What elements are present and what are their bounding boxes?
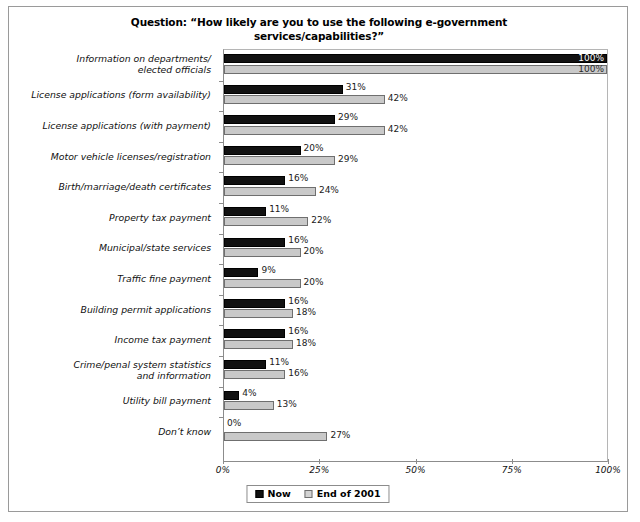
category-label-line: Motor vehicle licenses/registration	[51, 151, 211, 162]
x-axis-tick-label: 50%	[405, 465, 425, 475]
chart-legend: NowEnd of 2001	[246, 485, 389, 503]
bar-end-of-2001	[224, 248, 301, 257]
x-axis-tick	[416, 459, 417, 464]
bar-rows: 100%100%31%42%29%42%20%29%16%24%11%22%16…	[224, 50, 607, 461]
category-label-line: Don’t know	[158, 426, 211, 437]
bar-value-end-of-2001: 20%	[301, 247, 324, 256]
bar-value-now: 16%	[285, 236, 308, 245]
x-axis-tick-label: 0%	[216, 465, 230, 475]
category-label: Building permit applications	[19, 294, 217, 325]
chart-title-line: Question: “How likely are you to use the…	[69, 15, 569, 29]
category-tick	[219, 111, 224, 112]
bar-now	[224, 146, 301, 155]
chart-title-line: services/capabilities?”	[69, 29, 569, 43]
category-label: License applications (with payment)	[19, 110, 217, 141]
bar-now: 100%	[224, 54, 607, 63]
bar-end-of-2001	[224, 95, 385, 104]
category-label-line: License applications (with payment)	[43, 120, 211, 131]
bar-value-now: 16%	[285, 297, 308, 306]
category-tick	[219, 387, 224, 388]
bar-value-now: 0%	[224, 419, 241, 428]
bar-row: 0%27%	[224, 417, 607, 448]
bar-value-now: 11%	[266, 358, 289, 367]
bar-now	[224, 85, 343, 94]
chart-figure: Question: “How likely are you to use the…	[8, 6, 628, 512]
category-label: Traffic fine payment	[19, 263, 217, 294]
bar-value-now: 4%	[239, 389, 256, 398]
bar-end-of-2001	[224, 187, 316, 196]
bar-end-of-2001	[224, 401, 274, 410]
bar-value-end-of-2001: 16%	[285, 369, 308, 378]
x-axis-tick	[319, 459, 320, 464]
bar-end-of-2001	[224, 217, 308, 226]
category-label: Property tax payment	[19, 202, 217, 233]
bar-now	[224, 115, 335, 124]
bar-end-of-2001	[224, 370, 285, 379]
bar-row: 16%24%	[224, 172, 607, 203]
bar-now	[224, 176, 285, 185]
x-axis-tick	[512, 459, 513, 464]
category-label: Utility bill payment	[19, 386, 217, 417]
x-axis: 0%25%50%75%100%	[223, 465, 608, 479]
category-label-line: Property tax payment	[109, 212, 211, 223]
bar-now	[224, 299, 285, 308]
category-axis-labels: Information on departments/elected offic…	[19, 49, 217, 462]
category-label-line: and information	[73, 370, 211, 381]
bar-row: 31%42%	[224, 81, 607, 112]
bar-row: 4%13%	[224, 387, 607, 418]
bar-now	[224, 207, 266, 216]
category-tick	[219, 234, 224, 235]
bar-value-now: 9%	[258, 266, 275, 275]
bar-row: 11%22%	[224, 203, 607, 234]
bar-value-end-of-2001: 20%	[301, 278, 324, 287]
legend-item[interactable]: End of 2001	[305, 488, 381, 499]
category-tick	[219, 142, 224, 143]
x-axis-tick-label: 100%	[595, 465, 621, 475]
category-label-line: elected officials	[77, 64, 211, 75]
bar-row: 16%20%	[224, 234, 607, 265]
category-label: Motor vehicle licenses/registration	[19, 141, 217, 172]
category-label: Crime/penal system statisticsand informa…	[19, 355, 217, 386]
category-tick	[219, 81, 224, 82]
bar-value-now: 29%	[335, 113, 358, 122]
chart-title: Question: “How likely are you to use the…	[69, 15, 569, 43]
bar-value-now: 11%	[266, 205, 289, 214]
x-axis-tick	[223, 459, 224, 464]
bar-now	[224, 391, 239, 400]
category-tick	[219, 417, 224, 418]
category-label-line: Traffic fine payment	[117, 273, 211, 284]
plot-area: 100%100%31%42%29%42%20%29%16%24%11%22%16…	[223, 49, 608, 462]
category-label-line: Crime/penal system statistics	[73, 359, 211, 370]
category-label: Information on departments/elected offic…	[19, 49, 217, 80]
bar-end-of-2001	[224, 126, 385, 135]
bar-now	[224, 268, 258, 277]
bar-value-end-of-2001: 27%	[327, 431, 350, 440]
category-tick	[219, 264, 224, 265]
category-tick	[219, 356, 224, 357]
bar-value-end-of-2001: 18%	[293, 308, 316, 317]
bar-end-of-2001	[224, 156, 335, 165]
category-tick	[219, 203, 224, 204]
bar-value-end-of-2001: 42%	[385, 94, 408, 103]
bar-now	[224, 360, 266, 369]
bar-now	[224, 329, 285, 338]
x-axis-tick	[608, 459, 609, 464]
legend-label: Now	[267, 488, 290, 499]
bar-row: 16%18%	[224, 295, 607, 326]
category-label: License applications (form availability)	[19, 80, 217, 111]
bar-value-end-of-2001: 18%	[293, 339, 316, 348]
bar-value-end-of-2001: 24%	[316, 186, 339, 195]
category-label: Don’t know	[19, 416, 217, 447]
bar-now	[224, 238, 285, 247]
category-label: Birth/marriage/death certificates	[19, 171, 217, 202]
bar-end-of-2001	[224, 309, 293, 318]
bar-row: 11%16%	[224, 356, 607, 387]
bar-value-now: 20%	[301, 144, 324, 153]
bar-value-end-of-2001: 29%	[335, 155, 358, 164]
category-label-line: Utility bill payment	[123, 395, 211, 406]
bar-value-end-of-2001: 13%	[274, 400, 297, 409]
bar-end-of-2001: 100%	[224, 65, 607, 74]
category-label-line: Income tax payment	[115, 334, 211, 345]
legend-swatch-icon	[305, 490, 313, 498]
legend-item[interactable]: Now	[255, 488, 290, 499]
